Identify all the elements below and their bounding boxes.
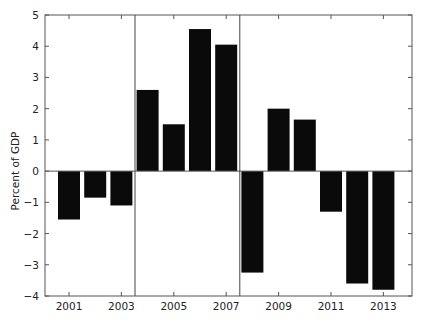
bars-group bbox=[58, 29, 394, 290]
bar-chart: −4−3−2−101234520012003200520072009201120… bbox=[0, 0, 421, 323]
x-tick-label: 2003 bbox=[108, 300, 135, 312]
y-tick-label: 1 bbox=[32, 134, 39, 146]
bar-2002 bbox=[84, 171, 106, 198]
x-tick-label: 2011 bbox=[318, 300, 345, 312]
y-tick-label: −2 bbox=[24, 228, 39, 240]
y-tick-label: −3 bbox=[24, 259, 39, 271]
bar-2005 bbox=[163, 124, 185, 171]
x-tick-label: 2013 bbox=[370, 300, 397, 312]
x-tick-label: 2005 bbox=[160, 300, 187, 312]
x-tick-label: 2007 bbox=[213, 300, 240, 312]
x-tick-label: 2001 bbox=[56, 300, 83, 312]
y-tick-label: −4 bbox=[24, 290, 40, 302]
y-tick-label: 3 bbox=[32, 71, 39, 83]
bar-2008 bbox=[241, 171, 263, 272]
bar-2004 bbox=[137, 90, 159, 171]
bar-2003 bbox=[110, 171, 132, 205]
y-tick-label: 4 bbox=[32, 40, 39, 52]
bar-2009 bbox=[268, 109, 290, 171]
bar-2001 bbox=[58, 171, 80, 219]
y-tick-label: 5 bbox=[32, 9, 39, 21]
bar-2012 bbox=[346, 171, 368, 283]
y-tick-label: 0 bbox=[32, 165, 39, 177]
bar-2011 bbox=[320, 171, 342, 212]
bar-2010 bbox=[294, 120, 316, 172]
y-tick-label: 2 bbox=[32, 103, 39, 115]
y-tick-label: −1 bbox=[24, 196, 39, 208]
bar-2013 bbox=[372, 171, 394, 290]
y-axis-label: Percent of GDP bbox=[9, 132, 21, 211]
bar-2006 bbox=[189, 29, 211, 171]
x-tick-label: 2009 bbox=[265, 300, 292, 312]
bar-2007 bbox=[215, 45, 237, 171]
